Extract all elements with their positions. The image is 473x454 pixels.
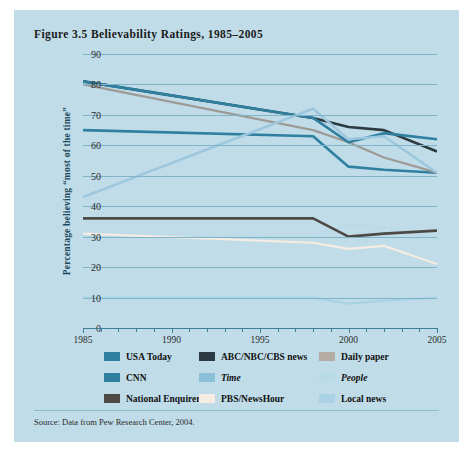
gridline [83,145,437,146]
gridline [83,298,437,299]
legend-item[interactable]: National Enquirer [104,394,199,404]
x-tick-label: 1995 [251,335,270,345]
legend-label: ABC/NBC/CBS news [221,352,307,362]
y-tick-label: 70 [77,109,101,120]
figure-title-text: Figure 3.5 Believability Ratings, 1985–2… [34,28,263,40]
x-tick-label: 2000 [339,335,358,345]
legend-item[interactable]: Time [199,373,319,383]
x-tick-label: 1990 [162,335,181,345]
gridline [83,115,437,116]
y-tick-label: 80 [77,79,101,90]
x-tick-minor [225,328,226,332]
legend-item[interactable]: PBS/NewsHour [199,394,319,404]
legend-label: PBS/NewsHour [221,394,284,404]
x-tick-major [260,328,261,333]
gridline [83,206,437,207]
legend-swatch-icon [199,352,215,361]
x-tick-minor [384,328,385,332]
legend-label: Time [221,373,241,383]
x-tick-minor [118,328,119,332]
x-tick-minor [242,328,243,332]
gridline [83,176,437,177]
plot-area [83,54,437,328]
legend-item[interactable]: ABC/NBC/CBS news [199,352,319,362]
legend-label: Daily paper [341,352,389,362]
legend-label: Local news [341,394,386,404]
figure-panel: Figure 3.5 Believability Ratings, 1985–2… [14,10,459,442]
legend-swatch-icon [319,352,335,361]
legend-item[interactable]: People [319,373,419,383]
legend-swatch-icon [104,352,120,361]
y-tick-label: 90 [77,49,101,60]
legend-swatch-icon [199,373,215,382]
series-line [83,81,437,151]
legend-item[interactable]: CNN [104,373,199,383]
x-tick-minor [402,328,403,332]
source-note: Source: Data from Pew Research Center, 2… [34,417,195,427]
figure-title: Figure 3.5 Believability Ratings, 1985–2… [34,28,263,40]
gridline [83,84,437,85]
x-tick-minor [101,328,102,332]
legend-label: People [341,373,367,383]
x-tick-minor [154,328,155,332]
legend-swatch-icon [104,394,120,403]
x-tick-minor [136,328,137,332]
x-tick-minor [313,328,314,332]
x-tick-minor [419,328,420,332]
y-tick-label: 20 [77,262,101,273]
legend-item[interactable]: Local news [319,394,419,404]
x-tick-label: 1985 [74,335,93,345]
legend-item[interactable]: USA Today [104,352,199,362]
y-axis-title: Percentage believing “most of the time” [60,54,74,328]
x-tick-minor [295,328,296,332]
x-tick-minor [207,328,208,332]
y-tick-label: 40 [77,201,101,212]
gridline [83,54,437,55]
legend-label: CNN [126,373,147,383]
y-axis-title-text: Percentage believing “most of the time” [62,107,72,275]
y-tick-label: 60 [77,140,101,151]
y-tick-label: 10 [77,292,101,303]
x-tick-minor [278,328,279,332]
legend-item[interactable]: Daily paper [319,352,419,362]
legend-label: National Enquirer [126,394,201,404]
x-tick-minor [366,328,367,332]
x-tick-minor [189,328,190,332]
x-axis [83,328,437,329]
y-tick-label: 50 [77,170,101,181]
series-line [83,234,437,264]
legend-swatch-icon [319,373,335,382]
x-tick-major [172,328,173,333]
chart-legend: USA TodayABC/NBC/CBS newsDaily paperCNNT… [104,346,424,409]
legend-swatch-icon [104,373,120,382]
x-tick-minor [331,328,332,332]
gridline [83,267,437,268]
legend-label: USA Today [126,352,172,362]
legend-swatch-icon [199,394,215,403]
source-divider [34,410,439,411]
series-line [83,109,437,197]
x-tick-major [83,328,84,333]
x-tick-major [349,328,350,333]
series-line [83,81,437,142]
gridline [83,237,437,238]
legend-swatch-icon [319,394,335,403]
x-tick-major [437,328,438,333]
x-tick-label: 2005 [428,335,447,345]
series-lines [83,54,437,328]
y-tick-label: 30 [77,231,101,242]
